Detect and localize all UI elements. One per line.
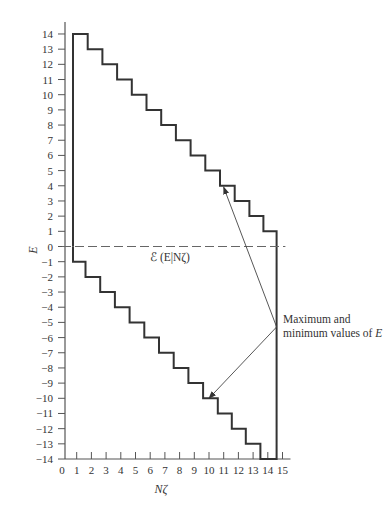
annotation-line1: Maximum and	[283, 313, 351, 325]
y-tick-label: 4	[48, 180, 54, 192]
y-tick-label: −10	[36, 392, 54, 404]
annotation-line2-text: minimum values of	[283, 327, 375, 339]
x-tick-label: 12	[233, 464, 244, 476]
y-tick-label: −6	[41, 332, 53, 344]
x-tick-label: 5	[133, 464, 139, 476]
y-tick-label: −3	[41, 286, 53, 298]
y-tick-label: −13	[36, 438, 54, 450]
y-tick-label: −5	[41, 316, 53, 328]
x-tick-label: 7	[162, 464, 168, 476]
chart: 14131211109876543210−1−2−3−4−5−6−7−8−9−1…	[0, 0, 392, 511]
y-tick-label: 2	[48, 210, 54, 222]
y-tick-label: 12	[42, 58, 53, 70]
x-tick-label: 14	[262, 464, 274, 476]
x-tick-label: 0	[59, 464, 65, 476]
mean-energy-label: ℰ (E|Nζ)	[150, 251, 190, 264]
y-tick-label: 11	[42, 74, 53, 86]
y-tick-label: −14	[36, 453, 54, 465]
y-tick-label: −8	[41, 362, 53, 374]
annotation-line2: minimum values of E	[283, 327, 382, 339]
x-tick-label: 11	[218, 464, 229, 476]
x-tick-label: 3	[103, 464, 109, 476]
y-tick-label: 0	[48, 241, 54, 253]
y-tick-label: −12	[36, 423, 53, 435]
annotation-layer: E Nζ ℰ (E|Nζ) Maximum and minimum values…	[26, 187, 382, 496]
x-tick-label: 6	[147, 464, 153, 476]
y-tick-label: 5	[48, 165, 54, 177]
x-tick-label: 1	[74, 464, 80, 476]
y-tick-label: 1	[48, 225, 54, 237]
y-tick-label: 13	[42, 43, 54, 55]
y-axis-title: E	[26, 246, 40, 255]
x-tick-label: 8	[177, 464, 183, 476]
y-tick-label: 14	[42, 28, 54, 40]
y-tick-label: 10	[42, 89, 54, 101]
x-tick-label: 2	[89, 464, 95, 476]
y-tick-label: 9	[48, 104, 54, 116]
x-tick-label: 4	[118, 464, 124, 476]
annotation-variable: E	[374, 327, 382, 339]
y-tick-label: −4	[41, 301, 53, 313]
y-tick-label: 7	[48, 134, 54, 146]
y-tick-label: −9	[41, 377, 53, 389]
series-layer	[62, 34, 285, 459]
y-tick-label: −1	[41, 256, 53, 268]
x-axis-title: Nζ	[154, 482, 169, 496]
y-tick-label: −2	[41, 271, 53, 283]
x-tick-label: 10	[204, 464, 216, 476]
y-tick-label: −7	[41, 347, 53, 359]
x-tick-label: 15	[277, 464, 289, 476]
upper-step-curve	[73, 34, 277, 247]
y-tick-label: 6	[48, 149, 54, 161]
x-tick-label: 13	[248, 464, 260, 476]
y-tick-label: −11	[36, 407, 53, 419]
y-tick-label: 3	[48, 195, 54, 207]
y-tick-label: 8	[48, 119, 54, 131]
lower-step-curve	[73, 247, 277, 460]
arrow-to-minimum	[209, 327, 277, 398]
x-tick-label: 9	[192, 464, 198, 476]
